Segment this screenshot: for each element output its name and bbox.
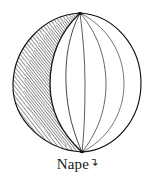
hook-flourish-mark-icon: ↴ bbox=[89, 157, 98, 168]
figure-nape: Nape↴ bbox=[0, 0, 155, 182]
top-apex-node bbox=[77, 12, 82, 15]
meridian-line-3 bbox=[80, 13, 85, 152]
crescent-core-shading bbox=[24, 13, 82, 152]
meridian-line-2 bbox=[66, 13, 82, 152]
caption-label: Nape bbox=[57, 157, 89, 172]
bottom-apex-node bbox=[80, 150, 85, 153]
meridian-line-5 bbox=[80, 13, 124, 152]
caption: Nape↴ bbox=[0, 155, 155, 172]
